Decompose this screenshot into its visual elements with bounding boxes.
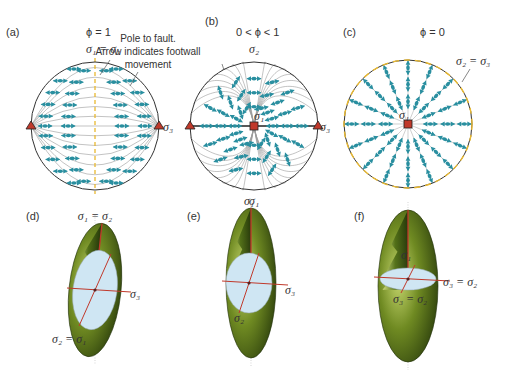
annotation-line-3: movement [125,59,172,70]
sigma-label-a-right: σ₃ [163,120,173,134]
slip-arrow [406,139,411,154]
slip-arrow [280,124,295,129]
slip-arrow [429,145,443,159]
slip-arrow [373,89,387,103]
slip-arrow [137,124,152,129]
panel-b: (b) 0 < ϕ < 1 σ₂ σ₃ σ₁ σ₁ [185,15,330,208]
slip-arrow [273,142,282,158]
slip-arrow [114,124,129,129]
stereonet-a [26,58,164,194]
slip-arrow [216,107,231,119]
arrow-shaft [443,79,453,89]
sigma-label-b-center: σ₁ [254,109,264,123]
slip-arrow [277,109,293,118]
slip-arrow [114,114,129,119]
slip-arrow [452,97,468,107]
slip-arrow [130,157,145,162]
sigma3-marker-left [185,121,195,129]
slip-arrow [406,156,411,171]
slip-arrow [61,133,76,138]
sigma-label-f-bottom: σ₃ = σ₂ [393,292,427,306]
pole-annotation: Pole to fault. Arrow indicates footwall … [95,33,224,86]
slip-arrow [61,124,76,129]
panel-label-d: (d) [26,210,39,222]
slip-arrow [385,101,399,115]
arrow-shaft [363,79,373,89]
slip-arrow [110,91,125,96]
slip-arrow [45,90,60,95]
slip-arrow [440,122,455,127]
slip-arrow [270,98,286,107]
slip-arrow [361,77,375,91]
slip-arrow [348,140,364,150]
panel-label-b: (b) [205,15,218,27]
slip-arrow [373,145,387,159]
origin-dot [93,288,96,291]
arrow-shaft [279,135,291,142]
slip-arrow [452,140,468,150]
arrow-shaft [363,159,373,169]
slip-arrow [290,104,306,113]
sigma-label-e-right: σ₃ [285,283,295,297]
arrow-shaft [232,76,240,88]
stereonet-c [344,60,472,188]
arrow-shaft [292,141,304,148]
slip-arrow [247,76,262,81]
slip-arrow [122,169,137,174]
panel-label-e: (e) [187,210,200,222]
panel-f: (f) σ₁ σ₃ = σ₂ σ₃ = σ₂ [354,202,477,370]
slip-arrow [423,122,438,127]
stress-ellipsoid-f [374,202,450,370]
panel-d: (d) σ₁ = σ₂ σ₃ σ₂ = σ₁ [26,209,140,365]
phi-label-b: 0 < ϕ < 1 [236,26,279,38]
slip-arrow [361,157,375,171]
slip-arrow [417,133,431,147]
sigma-label-c-center: σ₁ [399,108,409,122]
stress-figure: (a) ϕ = 1 σ₁ = σ₂ σ₃ Pole to fault. Arro… [0,0,513,374]
ring-leader-c [462,69,470,82]
arrow-shaft [387,135,397,145]
sigma-label-d-right: σ₃ [130,287,140,301]
slip-arrow [114,133,129,138]
slip-arrow [344,122,359,127]
slip-arrow [363,134,379,144]
slip-arrow [264,114,280,123]
arrow-shaft [204,104,216,111]
slip-arrow [266,124,281,129]
panel-e: (e) σ₁ σ₃ σ₂ [187,194,295,366]
slip-arrow [381,168,391,184]
slip-arrow [406,60,411,75]
slip-arrow [437,104,453,114]
slip-arrow [363,104,379,114]
slip-arrow [406,77,411,92]
arrow-shaft [375,147,385,157]
slip-arrow [348,97,364,107]
slip-arrow [290,138,305,150]
sigma-label-e-top: σ₁ [244,194,254,208]
annotation-line-1: Pole to fault. [120,33,176,44]
arrow-shaft [268,164,276,176]
trajectory-trace [191,126,254,156]
slip-arrow [227,124,242,129]
arrow-shaft [419,103,429,113]
slip-arrow [45,157,60,162]
slip-arrow [130,90,145,95]
origin-dot [406,277,409,280]
slip-arrow [216,85,225,101]
arrow-shaft [387,103,397,113]
slip-arrow [202,140,218,149]
slip-arrow [424,168,434,184]
slip-arrow [213,124,228,129]
sigma-label-d-bottom: σ₂ = σ₁ [52,332,86,346]
phi-label-c: ϕ = 0 [420,26,445,38]
arrow-shaft [217,110,229,117]
sigma-label-b-right: σ₃ [320,120,330,134]
slip-arrow [437,134,453,144]
slip-arrow [226,95,235,111]
slip-arrow [388,79,398,95]
sigma-label-b-top: σ₂ [249,42,259,56]
slip-arrow [53,78,68,83]
slip-arrow [441,77,455,91]
slip-arrow [215,134,231,143]
slip-arrow [53,169,68,174]
